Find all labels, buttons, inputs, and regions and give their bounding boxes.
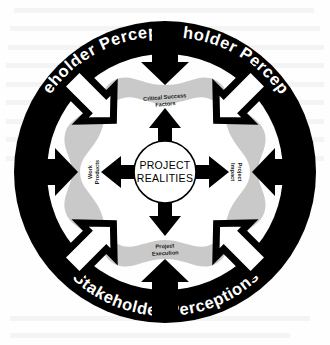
impact-line2: Impact bbox=[230, 163, 236, 181]
impact-line1: Project bbox=[237, 163, 243, 182]
diagram-root: Stakeholder Perceptions Stakeholder Perc… bbox=[0, 0, 330, 345]
work-line2: Products bbox=[94, 160, 100, 184]
quadrant-label-project-impact: Project Impact bbox=[230, 163, 243, 182]
project-realities-core: PROJECT REALITIES bbox=[134, 141, 196, 203]
exec-line1: Project bbox=[155, 243, 174, 250]
project-realities-diagram: Stakeholder Perceptions Stakeholder Perc… bbox=[0, 0, 330, 345]
center-label-line1: PROJECT bbox=[139, 159, 190, 171]
work-line1: Work bbox=[87, 164, 93, 179]
center-label-line2: REALITIES bbox=[137, 172, 193, 184]
